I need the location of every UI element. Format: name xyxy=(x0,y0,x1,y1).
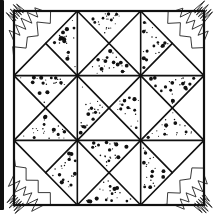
speckle-dot xyxy=(155,168,156,169)
speckle-dot xyxy=(144,151,147,154)
speckle-dot xyxy=(116,63,120,67)
speckle-dot xyxy=(143,51,144,52)
speckle-dot xyxy=(158,44,159,45)
speckle-dot xyxy=(166,134,167,135)
speckle-dot xyxy=(123,99,124,100)
speckle-dot xyxy=(108,27,110,29)
speckle-dot xyxy=(154,185,155,186)
speckle-dot xyxy=(93,21,96,24)
speckle-dot xyxy=(121,65,122,66)
speckle-dot xyxy=(110,19,113,22)
speckle-dot xyxy=(184,125,186,127)
speckle-dot xyxy=(151,170,155,174)
speckle-dot xyxy=(54,76,58,80)
speckle-dot xyxy=(146,166,147,167)
speckle-dot xyxy=(154,85,157,88)
speckle-dot xyxy=(97,73,98,74)
half-seam xyxy=(46,140,78,172)
speckle-dot xyxy=(88,109,90,111)
speckle-dot xyxy=(114,155,116,157)
speckle-dot xyxy=(65,57,69,61)
speckle-dot xyxy=(86,125,88,127)
speckle-dot xyxy=(114,142,116,144)
speckle-dot xyxy=(53,41,56,44)
speckle-dot xyxy=(116,12,117,13)
speckle-dot xyxy=(175,79,176,80)
speckle-dot xyxy=(169,81,170,82)
speckle-dot xyxy=(109,143,110,144)
speckle-dot xyxy=(103,59,107,63)
speckle-dot xyxy=(119,192,121,194)
triangle-right-dotted xyxy=(117,96,139,129)
speckle-dot xyxy=(61,168,62,169)
speckle-dot xyxy=(149,77,153,81)
speckle-dot xyxy=(142,30,146,34)
speckle-dot xyxy=(95,197,99,201)
speckle-dot xyxy=(188,82,191,85)
speckle-dot xyxy=(144,184,145,185)
speckle-dot xyxy=(182,77,184,79)
speckle-dot xyxy=(108,180,109,181)
speckle-dot xyxy=(112,61,116,65)
speckle-dot xyxy=(162,169,166,173)
speckle-dot xyxy=(110,27,111,28)
speckle-dot xyxy=(92,112,93,113)
speckle-dot xyxy=(102,59,103,60)
speckle-dot xyxy=(108,49,112,53)
speckle-dot xyxy=(53,83,54,84)
speckle-dot xyxy=(94,111,97,114)
speckle-dot xyxy=(102,189,103,190)
speckle-dot xyxy=(147,136,150,139)
speckle-dot xyxy=(126,106,129,109)
speckle-dot xyxy=(58,125,59,126)
speckle-dot xyxy=(68,186,69,187)
speckle-dot xyxy=(121,103,124,106)
speckle-dot xyxy=(86,112,90,116)
speckle-dot xyxy=(72,20,73,21)
speckle-dot xyxy=(125,113,126,114)
speckle-dot xyxy=(23,135,24,136)
speckle-dot xyxy=(38,91,42,95)
speckle-dot xyxy=(146,177,147,178)
speckle-dot xyxy=(167,43,168,44)
speckle-dot xyxy=(71,153,72,154)
speckle-dot xyxy=(172,103,173,104)
speckle-dot xyxy=(97,101,98,102)
speckle-dot xyxy=(85,104,87,106)
quilt-block xyxy=(0,0,215,223)
speckle-dot xyxy=(160,90,163,93)
speckle-dot xyxy=(165,119,166,120)
speckle-dot xyxy=(143,148,144,149)
speckle-dot xyxy=(158,52,160,54)
speckle-dot xyxy=(54,168,55,169)
speckle-dot xyxy=(148,162,149,163)
speckle-dot xyxy=(106,161,108,163)
quilt-cell-r1c0 xyxy=(20,76,66,140)
speckle-dot xyxy=(61,30,65,34)
speckle-dot xyxy=(36,128,37,129)
speckle-dot xyxy=(149,158,151,160)
speckle-dot xyxy=(31,80,35,84)
speckle-dot xyxy=(106,56,109,59)
speckle-dot xyxy=(67,51,70,54)
speckle-dot xyxy=(109,67,110,68)
speckle-dot xyxy=(179,124,180,125)
speckle-dot xyxy=(103,182,104,183)
speckle-dot xyxy=(114,15,115,16)
speckle-dot xyxy=(44,119,45,120)
speckle-dot xyxy=(135,113,136,114)
speckle-dot xyxy=(108,159,111,162)
speckle-dot xyxy=(113,17,114,18)
speckle-dot xyxy=(82,86,83,87)
speckle-dot xyxy=(150,179,152,181)
speckle-dot xyxy=(41,81,44,84)
speckle-dot xyxy=(92,66,93,67)
speckle-dot xyxy=(131,126,132,127)
speckle-dot xyxy=(104,65,105,66)
triangle-bottom-dotted xyxy=(147,112,192,139)
speckle-dot xyxy=(132,97,136,101)
speckle-dot xyxy=(104,155,105,156)
speckle-dot xyxy=(67,158,70,161)
speckle-dot xyxy=(57,79,58,80)
speckle-dot xyxy=(111,192,114,195)
